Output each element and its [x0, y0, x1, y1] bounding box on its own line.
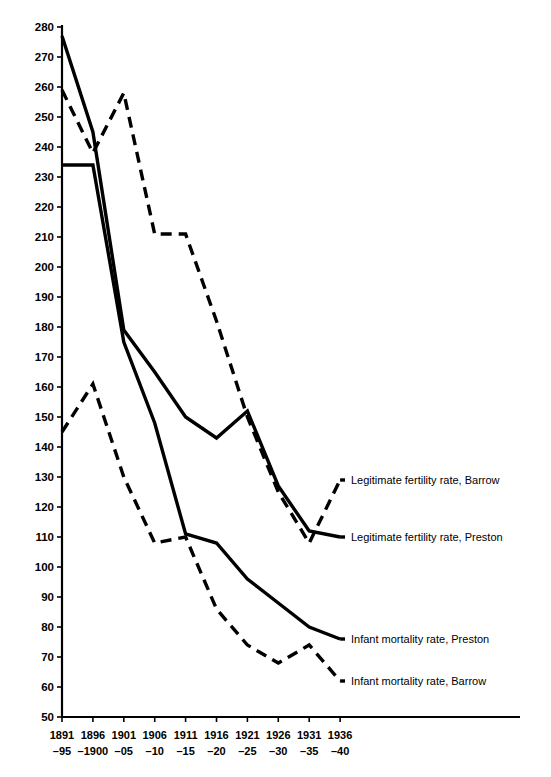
- x-tick-label-range: –95: [53, 745, 71, 757]
- x-tick-label-year: 1931: [297, 729, 321, 741]
- y-tick-label: 170: [35, 351, 54, 363]
- y-tick-label: 200: [35, 261, 54, 273]
- series-line-0: [62, 90, 340, 543]
- y-tick-label: 160: [35, 381, 54, 393]
- x-tick-label-year: 1911: [174, 729, 198, 741]
- y-tick-label: 280: [35, 21, 54, 33]
- y-tick-label: 270: [35, 51, 54, 63]
- y-tick-label: 260: [35, 81, 54, 93]
- series-line-2: [62, 165, 340, 639]
- series-label-3: Infant mortality rate, Barrow: [351, 675, 486, 687]
- y-tick-label: 140: [35, 441, 54, 453]
- x-tick-label-year: 1936: [328, 729, 352, 741]
- chart-container: 2802702602502402302202102001901801701601…: [0, 0, 551, 777]
- series-line-1: [62, 36, 340, 537]
- x-tick-label-year: 1901: [112, 729, 136, 741]
- x-tick-label-year: 1906: [142, 729, 166, 741]
- y-tick-label: 110: [35, 531, 54, 543]
- x-tick-label-range: –35: [300, 745, 318, 757]
- y-tick-label: 240: [35, 141, 54, 153]
- x-tick-label-range: –15: [176, 745, 194, 757]
- x-tick-label-range: –05: [115, 745, 133, 757]
- x-tick-label-year: 1891: [50, 729, 74, 741]
- x-tick-label-year: 1896: [81, 729, 105, 741]
- x-tick-label-range: –10: [146, 745, 164, 757]
- y-tick-label: 130: [35, 471, 54, 483]
- y-tick-label: 50: [41, 711, 54, 723]
- series-label-0: Legitimate fertility rate, Barrow: [351, 474, 500, 486]
- y-tick-label: 90: [41, 591, 54, 603]
- y-tick-label: 180: [35, 321, 54, 333]
- y-tick-label: 100: [35, 561, 54, 573]
- y-tick-label: 60: [41, 681, 54, 693]
- y-tick-label: 80: [41, 621, 54, 633]
- y-tick-label: 230: [35, 171, 54, 183]
- x-tick-label-range: –1900: [78, 745, 109, 757]
- y-tick-label: 210: [35, 231, 54, 243]
- x-tick-label-year: 1916: [204, 729, 228, 741]
- x-tick-label-year: 1926: [266, 729, 290, 741]
- series-label-2: Infant mortality rate, Preston: [351, 633, 489, 645]
- x-tick-label-year: 1921: [235, 729, 259, 741]
- y-tick-label: 250: [35, 111, 54, 123]
- x-tick-label-range: –25: [238, 745, 256, 757]
- y-tick-label: 70: [41, 651, 54, 663]
- line-chart: 2802702602502402302202102001901801701601…: [0, 0, 551, 777]
- y-tick-label: 120: [35, 501, 54, 513]
- x-tick-label-range: –20: [207, 745, 225, 757]
- y-tick-label: 150: [35, 411, 54, 423]
- y-tick-label: 220: [35, 201, 54, 213]
- x-tick-label-range: –30: [269, 745, 287, 757]
- y-tick-label: 190: [35, 291, 54, 303]
- x-tick-label-range: –40: [331, 745, 349, 757]
- series-label-1: Legitimate fertility rate, Preston: [351, 531, 503, 543]
